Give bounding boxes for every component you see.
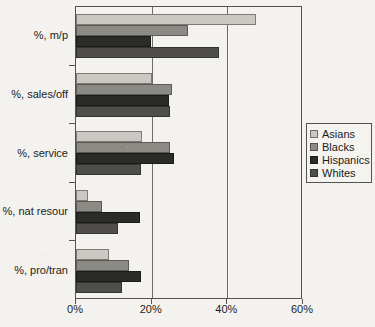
category-tick-2 bbox=[69, 182, 76, 183]
plot-area bbox=[75, 6, 302, 299]
category-tick-0 bbox=[69, 65, 76, 66]
bar-whites-4 bbox=[76, 282, 122, 293]
bar-blacks-1 bbox=[76, 84, 172, 95]
bar-whites-0 bbox=[76, 47, 219, 58]
bar-whites-2 bbox=[76, 164, 141, 175]
legend-swatch-icon-blacks bbox=[310, 143, 318, 151]
category-label-1: %, sales/off bbox=[11, 88, 68, 100]
legend-swatch-icon-hispanics bbox=[310, 156, 318, 164]
bar-hispanics-0 bbox=[76, 36, 151, 47]
legend-swatch-icon-asians bbox=[310, 130, 318, 138]
x-tick-label-2: 40% bbox=[206, 303, 246, 316]
bar-blacks-0 bbox=[76, 25, 188, 36]
x-tick-label-0: 0% bbox=[55, 303, 95, 316]
bar-group bbox=[76, 66, 301, 125]
bar-whites-1 bbox=[76, 106, 170, 117]
bar-asians-0 bbox=[76, 14, 256, 25]
bar-group bbox=[76, 124, 301, 183]
chart-legend: AsiansBlacksHispanicsWhites bbox=[306, 123, 372, 183]
bar-hispanics-2 bbox=[76, 153, 174, 164]
legend-item-blacks[interactable]: Blacks bbox=[310, 140, 369, 153]
legend-label-blacks: Blacks bbox=[322, 141, 354, 153]
category-label-0: %, m/p bbox=[34, 29, 68, 41]
bar-blacks-4 bbox=[76, 260, 129, 271]
category-label-4: %, pro/tran bbox=[14, 264, 68, 276]
legend-item-asians[interactable]: Asians bbox=[310, 127, 369, 140]
bar-hispanics-1 bbox=[76, 95, 169, 106]
bar-hispanics-4 bbox=[76, 271, 141, 282]
x-tick-label-3: 60% bbox=[282, 303, 322, 316]
bar-chart: %, m/p%, sales/off%, service%, nat resou… bbox=[0, 0, 375, 327]
bar-asians-2 bbox=[76, 131, 142, 142]
bar-asians-1 bbox=[76, 73, 152, 84]
bar-group bbox=[76, 7, 301, 66]
legend-item-hispanics[interactable]: Hispanics bbox=[310, 153, 369, 166]
bar-asians-3 bbox=[76, 190, 88, 201]
bar-blacks-3 bbox=[76, 201, 102, 212]
x-tick-label-1: 20% bbox=[131, 303, 171, 316]
category-tick-1 bbox=[69, 123, 76, 124]
category-label-2: %, service bbox=[17, 147, 68, 159]
category-label-3: %, nat resour bbox=[3, 205, 68, 217]
bar-blacks-2 bbox=[76, 142, 170, 153]
legend-item-whites[interactable]: Whites bbox=[310, 166, 369, 179]
legend-label-hispanics: Hispanics bbox=[322, 154, 370, 166]
bar-hispanics-3 bbox=[76, 212, 140, 223]
bar-group bbox=[76, 183, 301, 242]
legend-label-whites: Whites bbox=[322, 167, 356, 179]
category-tick-3 bbox=[69, 240, 76, 241]
legend-label-asians: Asians bbox=[322, 128, 355, 140]
legend-swatch-icon-whites bbox=[310, 169, 318, 177]
bar-whites-3 bbox=[76, 223, 118, 234]
bar-group bbox=[76, 241, 301, 300]
bar-asians-4 bbox=[76, 249, 109, 260]
